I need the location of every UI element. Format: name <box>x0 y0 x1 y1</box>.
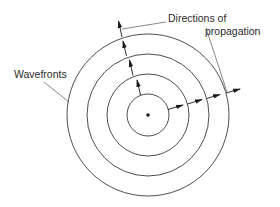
directions-label-line1: Directions of <box>168 12 226 24</box>
arrow-icon <box>123 41 127 56</box>
source-point <box>146 113 150 117</box>
wavefronts-leader <box>44 82 69 102</box>
wavefront-diagram: Directions of propagation Wavefronts <box>0 0 280 207</box>
arrow-icon <box>207 95 221 99</box>
wavefronts-label: Wavefronts <box>14 68 67 80</box>
directions-label-line2: propagation <box>205 25 261 37</box>
directions-leader-top <box>122 22 166 29</box>
arrow-icon <box>226 89 240 93</box>
arrow-icon <box>130 60 134 76</box>
leader-lines <box>44 22 227 102</box>
arrow-icon <box>188 100 203 105</box>
arrow-icon <box>168 105 183 110</box>
propagation-arrows-right <box>168 89 240 110</box>
arrow-icon <box>119 21 123 37</box>
arrow-icon <box>137 80 141 95</box>
directions-leader-right <box>206 28 227 92</box>
